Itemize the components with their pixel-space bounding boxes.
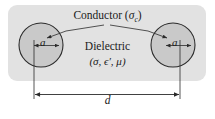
conductor-label-text: Conductor ( <box>73 9 128 21</box>
conductor-label-close-paren: ) <box>138 9 142 21</box>
conductor-label: Conductor (σc) <box>0 9 215 24</box>
dielectric-label: Dielectric <box>0 40 215 52</box>
separation-distance-label: d <box>0 94 215 106</box>
figure-two-wire-transmission-line: Conductor (σc) Dielectric (σ, ϵ′, μ) a a… <box>0 0 215 119</box>
dielectric-parameters-label: (σ, ϵ′, μ) <box>0 55 215 67</box>
right-radius-label: a <box>172 36 178 48</box>
left-radius-label: a <box>40 36 46 48</box>
